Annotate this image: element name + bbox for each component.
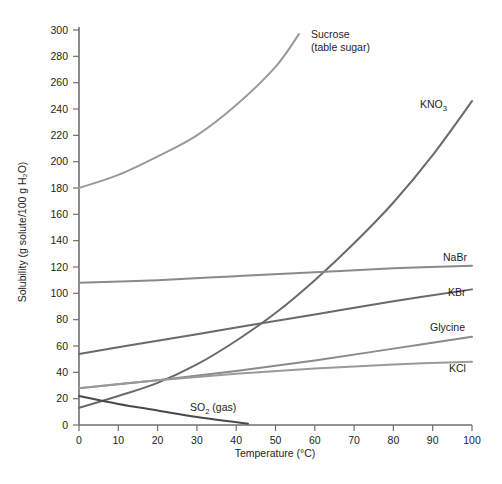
y-tick-label: 200 [50, 155, 68, 167]
series-curves [79, 34, 472, 424]
series-curve-sucrose-table-sugar [79, 34, 299, 188]
sucrose-label: Sucrose [311, 28, 350, 40]
y-tick-label: 300 [50, 24, 68, 36]
x-tick-label: 80 [388, 434, 400, 446]
y-tick-label: 80 [56, 313, 68, 325]
so2-label: SO2 (gas) [190, 401, 236, 416]
y-tick-label: 120 [50, 261, 68, 273]
x-tick-label: 30 [191, 434, 203, 446]
y-tick-label: 160 [50, 208, 68, 220]
nabr-label: NaBr [443, 251, 467, 263]
y-tick-label: 140 [50, 234, 68, 246]
series-curve-nabr [79, 266, 472, 283]
x-tick-label: 50 [270, 434, 282, 446]
kbr-label: KBr [448, 286, 466, 298]
x-axis-ticks: 0102030405060708090100 [76, 425, 481, 446]
x-axis-title: Temperature (°C) [235, 447, 316, 459]
y-tick-label: 60 [56, 340, 68, 352]
x-tick-label: 40 [230, 434, 242, 446]
chart-canvas: 0204060801001201401601802002202402602803… [0, 0, 502, 484]
series-curve-kno3 [79, 101, 472, 408]
series-curve-kbr [79, 289, 472, 354]
x-tick-label: 60 [309, 434, 321, 446]
x-tick-label: 100 [463, 434, 481, 446]
y-tick-label: 40 [56, 366, 68, 378]
x-tick-label: 0 [76, 434, 82, 446]
y-tick-label: 280 [50, 50, 68, 62]
y-tick-label: 20 [56, 392, 68, 404]
solubility-chart: 0204060801001201401601802002202402602803… [0, 0, 502, 484]
y-axis-ticks: 0204060801001201401601802002202402602803… [50, 24, 79, 431]
y-tick-label: 180 [50, 182, 68, 194]
glycine-label: Glycine [430, 321, 465, 333]
x-tick-label: 20 [152, 434, 164, 446]
kcl-label: KCl [449, 362, 466, 374]
y-tick-label: 260 [50, 76, 68, 88]
y-tick-label: 240 [50, 103, 68, 115]
x-tick-label: 90 [427, 434, 439, 446]
y-axis-title: Solubility (g solute/100 g H₂O) [16, 162, 28, 303]
y-tick-label: 100 [50, 287, 68, 299]
kno3-label: KNO3 [420, 98, 447, 113]
y-tick-label: 0 [62, 419, 68, 431]
y-tick-label: 220 [50, 129, 68, 141]
sucrose-label-line2: (table sugar) [311, 41, 370, 53]
x-tick-label: 10 [112, 434, 124, 446]
x-tick-label: 70 [348, 434, 360, 446]
